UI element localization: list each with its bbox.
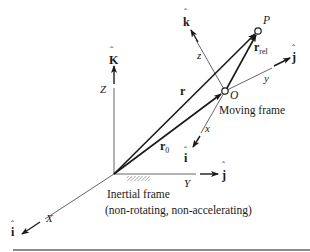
k-hat-unit-vector-icon — [191, 30, 198, 42]
X-axis-label: X — [45, 212, 54, 224]
point-P-marker — [255, 28, 261, 34]
I-hat-caret: ˆ — [11, 219, 14, 229]
j-hat-caret: ˆ — [292, 43, 295, 53]
vector-rrel — [227, 35, 256, 88]
J-hat-label: j — [221, 168, 226, 182]
origin-O-label: O — [230, 89, 239, 101]
ground-hatch-icon — [127, 176, 150, 181]
vector-r0-label: r0 — [160, 139, 169, 155]
Y-axis-label: Y — [184, 177, 192, 189]
moving-frame-label: Moving frame — [219, 104, 285, 117]
point-P-label: P — [262, 14, 270, 26]
moving-y-label: y — [263, 72, 269, 84]
origin-O-marker — [222, 88, 228, 94]
moving-z-label: z — [196, 49, 202, 61]
vector-r0-subscript: 0 — [165, 146, 169, 155]
j-hat-unit-vector-icon — [274, 58, 290, 66]
reference-frames-diagram: K ˆ Z Y j ˆ X i ˆ Inertial frame (non-ro… — [0, 0, 310, 252]
J-hat-caret: ˆ — [222, 160, 225, 170]
Z-axis-label: Z — [100, 83, 107, 95]
vector-r-label: r — [180, 84, 186, 98]
i-hat-caret: ˆ — [184, 145, 187, 155]
inertial-x-axis — [45, 174, 114, 219]
moving-z-axis — [196, 40, 225, 91]
k-hat-label: k — [183, 15, 190, 29]
i-hat-unit-vector-icon — [193, 136, 200, 147]
vector-r0 — [114, 94, 221, 174]
vector-rrel-label: rrel — [254, 40, 269, 56]
inertial-frame-sublabel: (non-rotating, non-accelerating) — [105, 204, 252, 217]
inertial-frame-label: Inertial frame — [107, 188, 170, 200]
k-hat-caret: ˆ — [184, 7, 187, 17]
I-hat-unit-vector-icon — [22, 222, 40, 234]
moving-x-label: x — [204, 122, 210, 134]
vector-rrel-subscript: rel — [259, 47, 268, 56]
